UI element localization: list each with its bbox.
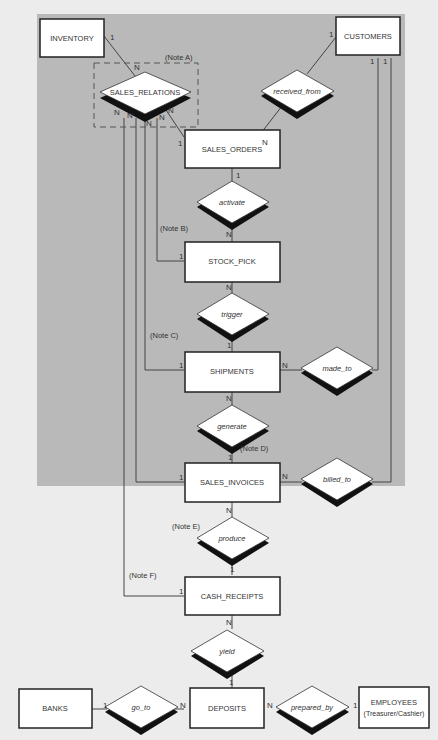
relationship-label: billed_to [323,475,351,484]
svg-text:N: N [282,472,288,481]
note-e: (Note E) [172,522,200,531]
note-c: (Note C) [150,331,179,340]
svg-text:1: 1 [228,453,233,462]
entity-stock-pick[interactable]: STOCK_PICK [185,242,280,282]
svg-text:1: 1 [178,139,183,148]
svg-text:N: N [282,361,288,370]
note-b: (Note B) [160,224,188,233]
svg-text:1: 1 [370,57,375,66]
relationship-prepared-by[interactable]: prepared_by [276,686,349,735]
svg-text:N: N [226,230,232,239]
entity-sales-orders[interactable]: SALES_ORDERS [185,130,280,168]
relationship-label: prepared_by [290,703,334,712]
svg-text:1: 1 [229,678,234,687]
entity-customers[interactable]: CUSTOMERS [336,17,400,55]
note-f: (Note F) [129,571,157,580]
svg-text:1: 1 [329,30,334,39]
entity-deposits[interactable]: DEPOSITS [190,688,264,728]
svg-text:1: 1 [103,701,108,710]
entity-label: EMPLOYEES [371,698,417,707]
relationship-produce[interactable]: produce [197,517,269,566]
svg-text:1: 1 [179,587,184,596]
svg-text:1: 1 [227,341,232,350]
entity-label: STOCK_PICK [208,257,255,266]
entity-inventory[interactable]: INVENTORY [40,19,104,57]
svg-text:1: 1 [236,171,241,180]
svg-text:N: N [159,113,165,122]
entity-shipments[interactable]: SHIPMENTS [185,352,280,392]
relationship-label: SALES_RELATIONS [110,88,180,97]
svg-text:1: 1 [230,565,235,574]
svg-text:1: 1 [383,57,388,66]
entity-employees[interactable]: EMPLOYEES (Treasurer/Cashier) [359,687,429,728]
relationship-label: made_to [322,364,351,373]
svg-text:1: 1 [353,701,358,710]
relationship-label: go_to [132,703,151,712]
entity-label: INVENTORY [50,34,93,43]
svg-text:1: 1 [179,473,184,482]
entity-sales-invoices[interactable]: SALES_INVOICES [185,463,280,502]
relationship-yield[interactable]: yield [191,630,264,679]
svg-text:N: N [168,106,174,115]
svg-text:N: N [127,111,133,120]
svg-text:N: N [226,618,232,627]
svg-text:N: N [226,394,232,403]
entity-banks[interactable]: BANKS [19,689,92,728]
relationship-label: trigger [221,310,243,319]
svg-text:N: N [262,138,268,147]
svg-text:1: 1 [179,252,184,261]
relationship-label: produce [217,534,245,543]
relationship-label: received_from [273,87,321,96]
entity-sublabel: (Treasurer/Cashier) [364,710,425,718]
entity-label: DEPOSITS [208,704,246,713]
svg-text:N: N [180,701,186,710]
relationship-label: yield [218,647,235,656]
svg-text:1: 1 [179,361,184,370]
entity-label: SHIPMENTS [210,367,254,376]
svg-text:N: N [226,506,232,515]
entity-label: SALES_ORDERS [202,145,262,154]
svg-text:N: N [114,108,120,117]
note-a: (Note A) [165,53,193,62]
entity-label: CUSTOMERS [344,32,392,41]
entity-label: CASH_RECEIPTS [201,592,264,601]
er-diagram: INVENTORY CUSTOMERS SALES_ORDERS STOCK_P… [0,0,438,740]
entity-cash-receipts[interactable]: CASH_RECEIPTS [185,577,280,615]
entity-label: BANKS [42,704,67,713]
svg-text:N: N [134,63,140,72]
entity-label: SALES_INVOICES [200,478,264,487]
svg-text:N: N [146,119,152,128]
svg-text:1: 1 [110,33,115,42]
svg-text:N: N [267,701,273,710]
note-d: (Note D) [240,444,269,453]
relationship-go-to[interactable]: go_to [105,686,178,735]
svg-text:N: N [226,283,232,292]
relationship-label: generate [217,422,247,431]
relationship-label: activate [219,198,245,207]
